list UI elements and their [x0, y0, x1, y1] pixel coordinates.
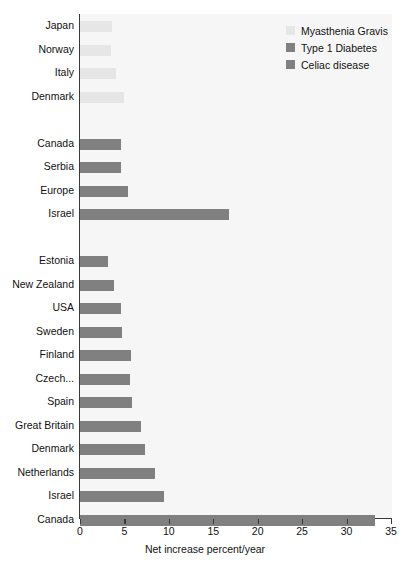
table-row: Denmark — [0, 443, 410, 457]
bar-category-label: Great Britain — [0, 418, 74, 432]
table-row: Sweden — [0, 326, 410, 340]
bar — [80, 350, 131, 361]
table-row: Canada — [0, 138, 410, 152]
bar — [80, 374, 130, 385]
x-tick-mark — [391, 519, 392, 524]
x-tick-mark — [258, 519, 259, 524]
bar — [80, 444, 145, 455]
table-row: Netherlands — [0, 467, 410, 481]
bar-category-label: Serbia — [0, 159, 74, 173]
bar — [80, 327, 122, 338]
legend-item-t1d: Type 1 Diabetes — [286, 39, 388, 56]
x-tick-mark — [302, 519, 303, 524]
bar-row-spacer — [0, 232, 410, 246]
x-tick-label: 30 — [332, 525, 362, 537]
bar-category-label: Italy — [0, 65, 74, 79]
bar — [80, 256, 108, 267]
bar-category-label: Denmark — [0, 441, 74, 455]
bar-category-label: New Zealand — [0, 277, 74, 291]
bar-category-label: Israel — [0, 488, 74, 502]
bar — [80, 21, 112, 32]
bar-category-label: Estonia — [0, 253, 74, 267]
x-tick-mark — [124, 519, 125, 524]
bar — [80, 139, 121, 150]
bar — [80, 468, 155, 479]
bar — [80, 162, 121, 173]
x-tick-label: 15 — [198, 525, 228, 537]
bar — [80, 280, 114, 291]
table-row: USA — [0, 302, 410, 316]
bar-category-label: USA — [0, 300, 74, 314]
table-row: Israel — [0, 208, 410, 222]
legend-item-mg: Myasthenia Gravis — [286, 22, 388, 39]
bar-category-label: Japan — [0, 18, 74, 32]
chart-legend: Myasthenia GravisType 1 DiabetesCeliac d… — [286, 22, 388, 73]
x-tick-label: 20 — [243, 525, 273, 537]
bar — [80, 186, 128, 197]
bar-category-label: Denmark — [0, 89, 74, 103]
bar — [80, 68, 116, 79]
bar-category-label: Czech... — [0, 371, 74, 385]
table-row: Czech... — [0, 373, 410, 387]
table-row: Estonia — [0, 255, 410, 269]
table-row: Israel — [0, 490, 410, 504]
bar — [80, 92, 124, 103]
bar — [80, 303, 121, 314]
legend-swatch-icon — [286, 60, 295, 69]
x-tick-label: 10 — [154, 525, 184, 537]
legend-swatch-icon — [286, 43, 295, 52]
bar-category-label: Canada — [0, 512, 74, 526]
table-row: Denmark — [0, 91, 410, 105]
bar-category-label: Sweden — [0, 324, 74, 338]
bar — [80, 209, 229, 220]
x-tick-mark — [80, 519, 81, 524]
bar-category-label: Finland — [0, 347, 74, 361]
x-tick-mark — [347, 519, 348, 524]
table-row: Serbia — [0, 161, 410, 175]
x-tick-label: 35 — [376, 525, 406, 537]
bar-category-label: Israel — [0, 206, 74, 220]
x-tick-label: 0 — [65, 525, 95, 537]
table-row: New Zealand — [0, 279, 410, 293]
x-tick-mark — [213, 519, 214, 524]
bar-category-label: Norway — [0, 42, 74, 56]
x-tick-label: 25 — [287, 525, 317, 537]
legend-item-cd: Celiac disease — [286, 56, 388, 73]
bar-chart: JapanNorwayItalyDenmarkCanadaSerbiaEurop… — [0, 0, 410, 567]
bar-category-label: Europe — [0, 183, 74, 197]
table-row: Great Britain — [0, 420, 410, 434]
legend-label: Myasthenia Gravis — [301, 25, 388, 37]
legend-label: Type 1 Diabetes — [301, 42, 377, 54]
table-row: Finland — [0, 349, 410, 363]
bar-category-label: Spain — [0, 394, 74, 408]
legend-swatch-icon — [286, 26, 295, 35]
bar-category-label: Netherlands — [0, 465, 74, 479]
bar — [80, 421, 141, 432]
bar — [80, 397, 132, 408]
x-tick-label: 5 — [109, 525, 139, 537]
table-row: Europe — [0, 185, 410, 199]
legend-label: Celiac disease — [301, 59, 369, 71]
bar-category-label: Canada — [0, 136, 74, 150]
bar-row-spacer — [0, 114, 410, 128]
x-tick-mark — [169, 519, 170, 524]
x-axis-label: Net increase percent/year — [0, 543, 410, 555]
bar — [80, 491, 164, 502]
table-row: Spain — [0, 396, 410, 410]
bar — [80, 45, 111, 56]
